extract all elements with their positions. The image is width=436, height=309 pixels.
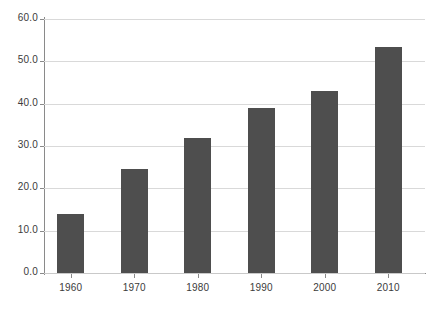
x-tick-mark <box>134 274 135 278</box>
x-tick-label: 2010 <box>358 282 418 293</box>
gridline <box>44 273 425 274</box>
y-tick-label: 50.0 <box>2 54 38 65</box>
x-tick-label: 2000 <box>295 282 355 293</box>
y-tick-label: 30.0 <box>2 139 38 150</box>
gridline <box>44 61 425 62</box>
y-tick-mark <box>40 61 44 62</box>
x-tick-label: 1960 <box>41 282 101 293</box>
bar <box>375 47 402 273</box>
y-tick-label: 10.0 <box>2 224 38 235</box>
y-tick-mark <box>40 104 44 105</box>
x-tick-mark <box>198 274 199 278</box>
bar <box>248 108 275 273</box>
y-tick-label: 60.0 <box>2 12 38 23</box>
gridline <box>44 104 425 105</box>
y-tick-mark <box>40 231 44 232</box>
y-tick-mark <box>40 19 44 20</box>
bar <box>121 169 148 273</box>
x-tick-mark <box>261 274 262 278</box>
x-tick-label: 1970 <box>104 282 164 293</box>
y-tick-label: 0.0 <box>2 266 38 277</box>
y-tick-mark <box>40 188 44 189</box>
gridline <box>44 188 425 189</box>
gridline <box>44 231 425 232</box>
x-tick-label: 1990 <box>231 282 291 293</box>
y-tick-mark <box>40 273 44 274</box>
y-tick-label: 20.0 <box>2 181 38 192</box>
gridline <box>44 146 425 147</box>
x-tick-mark <box>388 274 389 278</box>
y-tick-mark <box>40 146 44 147</box>
x-tick-mark <box>71 274 72 278</box>
bar <box>311 91 338 273</box>
bar <box>57 214 84 273</box>
gridline <box>44 19 425 20</box>
plot-area <box>44 19 425 273</box>
x-tick-mark <box>325 274 326 278</box>
y-tick-label: 40.0 <box>2 97 38 108</box>
bar-chart: 0.010.020.030.040.050.060.0 196019701980… <box>0 0 436 309</box>
bar <box>184 138 211 273</box>
x-tick-label: 1980 <box>168 282 228 293</box>
